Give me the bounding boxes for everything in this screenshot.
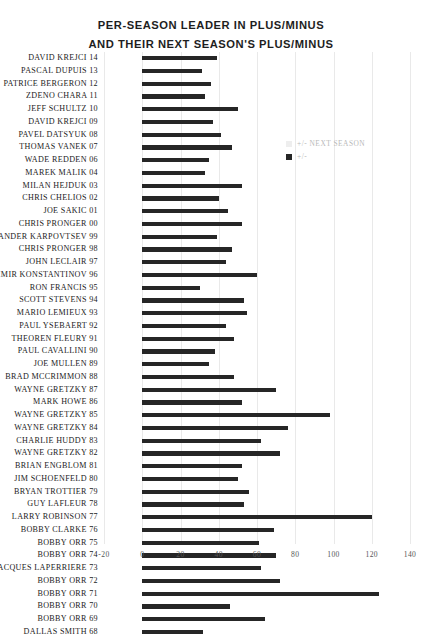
legend-swatch-icon-current bbox=[286, 154, 292, 160]
bar-row: JOE SAKIC 01 bbox=[104, 205, 410, 218]
bar-row: WAYNE GRETZKY 82 bbox=[104, 447, 410, 460]
bar-row: BOBBY ORR 72 bbox=[104, 575, 410, 588]
bar-row: ALEXANDER KARPOVTSEV 99 bbox=[104, 231, 410, 244]
legend-item-current: +/- bbox=[286, 151, 416, 162]
legend-item-next-season: +/- NEXT SEASON bbox=[286, 138, 416, 149]
bar-container bbox=[104, 435, 410, 448]
bar-current-season bbox=[142, 617, 264, 621]
bar-row: JIM SCHOENFELD 80 bbox=[104, 473, 410, 486]
bar-row: MARIO LEMIEUX 93 bbox=[104, 307, 410, 320]
chart-area: DAVID KREJCI 14PASCAL DUPUIS 13PATRICE B… bbox=[0, 52, 422, 552]
bar-row: CHRIS CHELIOS 02 bbox=[104, 192, 410, 205]
bar-container bbox=[104, 384, 410, 397]
bar-current-season bbox=[142, 502, 243, 506]
bar-row-label: CHRIS PRONGER 98 bbox=[19, 243, 98, 256]
bar-row-label: THEOREN FLEURY 91 bbox=[11, 333, 98, 346]
bar-container bbox=[104, 180, 410, 193]
bar-row: DALLAS SMITH 68 bbox=[104, 626, 410, 638]
bar-row: DAVID KREJCI 09 bbox=[104, 116, 410, 129]
bar-current-season bbox=[142, 541, 259, 545]
bar-container bbox=[104, 320, 410, 333]
bar-current-season bbox=[142, 247, 232, 251]
bar-row-label: BRYAN TROTTIER 79 bbox=[14, 486, 98, 499]
bar-row: BRAD MCCRIMMON 88 bbox=[104, 371, 410, 384]
bar-row-label: BOBBY ORR 72 bbox=[37, 575, 98, 588]
x-axis-tick-label: 0 bbox=[140, 550, 144, 559]
bar-row: JOHN LECLAIR 97 bbox=[104, 256, 410, 269]
bar-row: PAUL YSEBAERT 92 bbox=[104, 320, 410, 333]
bar-row-label: PAUL YSEBAERT 92 bbox=[19, 320, 98, 333]
bar-row: BRYAN TROTTIER 79 bbox=[104, 486, 410, 499]
bar-container bbox=[104, 192, 410, 205]
bar-row-label: CHRIS CHELIOS 02 bbox=[22, 192, 98, 205]
bar-current-season bbox=[142, 311, 247, 315]
bar-container bbox=[104, 498, 410, 511]
bar-row-label: ZDENO CHARA 11 bbox=[26, 90, 98, 103]
bar-row-label: THOMAS VANEK 07 bbox=[19, 141, 98, 154]
bar-current-season bbox=[142, 515, 372, 519]
bar-row-label: MILAN HEJDUK 03 bbox=[23, 180, 98, 193]
bar-current-season bbox=[142, 630, 203, 634]
bar-current-season bbox=[142, 464, 241, 468]
x-axis-tick-label: 100 bbox=[327, 550, 340, 559]
bar-current-season bbox=[142, 260, 226, 264]
bar-row-label: WADE REDDEN 06 bbox=[25, 154, 98, 167]
bar-row-label: JOHN LECLAIR 97 bbox=[26, 256, 98, 269]
bar-current-season bbox=[142, 477, 238, 481]
bar-current-season bbox=[142, 286, 199, 290]
bar-row-label: BOBBY ORR 69 bbox=[37, 613, 98, 626]
bar-row: CHRIS PRONGER 00 bbox=[104, 218, 410, 231]
bar-row-label: JIM SCHOENFELD 80 bbox=[14, 473, 98, 486]
bar-current-season bbox=[142, 56, 217, 60]
bar-container bbox=[104, 333, 410, 346]
bar-current-season bbox=[142, 158, 209, 162]
bar-container bbox=[104, 575, 410, 588]
bar-container bbox=[104, 473, 410, 486]
bar-container bbox=[104, 486, 410, 499]
bar-row-label: ALEXANDER KARPOVTSEV 99 bbox=[0, 231, 98, 244]
bar-row-label: BOBBY ORR 70 bbox=[37, 600, 98, 613]
bar-current-season bbox=[142, 604, 230, 608]
chart-title-line-1: PER-SEASON LEADER IN PLUS/MINUS bbox=[0, 16, 422, 35]
bar-current-season bbox=[142, 69, 201, 73]
bar-container bbox=[104, 90, 410, 103]
bar-row: BOBBY ORR 71 bbox=[104, 588, 410, 601]
bar-current-season bbox=[142, 133, 220, 137]
chart-title: PER-SEASON LEADER IN PLUS/MINUS AND THEI… bbox=[0, 16, 422, 54]
bar-container bbox=[104, 269, 410, 282]
bar-row-label: JACQUES LAPERRIERE 73 bbox=[0, 562, 98, 575]
legend-label-current: +/- bbox=[297, 152, 307, 161]
x-axis: -20020406080100120140 bbox=[104, 550, 410, 568]
bar-row-label: JOE MULLEN 89 bbox=[34, 358, 98, 371]
bar-row: MAREK MALIK 04 bbox=[104, 167, 410, 180]
bar-row-label: CHRIS PRONGER 00 bbox=[19, 218, 98, 231]
bar-container bbox=[104, 460, 410, 473]
bar-row-label: PAVEL DATSYUK 08 bbox=[18, 129, 98, 142]
bar-container bbox=[104, 345, 410, 358]
bar-current-season bbox=[142, 196, 219, 200]
bar-container bbox=[104, 371, 410, 384]
chart-legend: +/- NEXT SEASON +/- bbox=[286, 138, 416, 164]
bar-current-season bbox=[142, 171, 205, 175]
bar-row: CHRIS PRONGER 98 bbox=[104, 243, 410, 256]
bar-row-label: BOBBY CLARKE 76 bbox=[21, 524, 98, 537]
bar-current-season bbox=[142, 528, 274, 532]
bar-row: CHARLIE HUDDY 83 bbox=[104, 435, 410, 448]
bar-row: WAYNE GRETZKY 84 bbox=[104, 422, 410, 435]
bar-current-season bbox=[142, 451, 280, 455]
gridline-140 bbox=[410, 52, 411, 544]
bar-row: ZDENO CHARA 11 bbox=[104, 90, 410, 103]
bar-row: VLADIMIR KONSTANTINOV 96 bbox=[104, 269, 410, 282]
bar-row: BOBBY ORR 75 bbox=[104, 537, 410, 550]
bar-row-label: DALLAS SMITH 68 bbox=[24, 626, 99, 638]
bar-row-label: GUY LAFLEUR 78 bbox=[27, 498, 98, 511]
bar-current-season bbox=[142, 413, 329, 417]
bar-container bbox=[104, 588, 410, 601]
bar-current-season bbox=[142, 426, 287, 430]
bar-row: GUY LAFLEUR 78 bbox=[104, 498, 410, 511]
bar-container bbox=[104, 358, 410, 371]
x-axis-tick-label: 120 bbox=[365, 550, 378, 559]
bar-row-label: DAVID KREJCI 14 bbox=[28, 52, 98, 65]
bar-current-season bbox=[142, 209, 228, 213]
bar-container bbox=[104, 447, 410, 460]
